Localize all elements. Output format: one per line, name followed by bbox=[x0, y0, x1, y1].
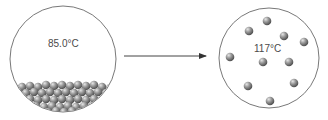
diagram-canvas bbox=[0, 0, 328, 120]
gas-container bbox=[219, 8, 319, 108]
gas-temperature-label: 117°C bbox=[254, 43, 281, 54]
liquid-particles bbox=[14, 81, 115, 117]
liquid-temperature-label: 85.0°C bbox=[48, 38, 79, 49]
liquid-container bbox=[10, 6, 116, 116]
